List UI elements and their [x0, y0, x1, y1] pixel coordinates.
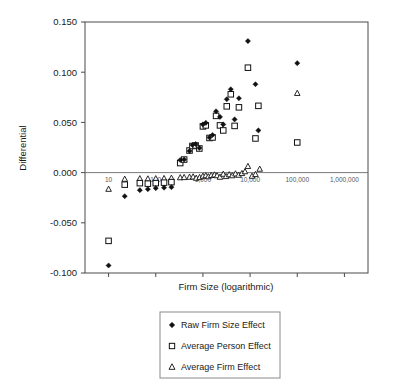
- data-point: [153, 180, 159, 186]
- data-point: [122, 194, 127, 199]
- scatter-plot-svg: 0.1500.1000.0500.000-0.050-0.100 101001,…: [0, 0, 395, 392]
- series-average-person-effect: [106, 65, 300, 244]
- legend: Raw Firm Size EffectAverage Person Effec…: [160, 312, 280, 378]
- series-raw-firm-size-effect: [106, 39, 300, 269]
- chart-figure: 0.1500.1000.0500.000-0.050-0.100 101001,…: [0, 0, 395, 392]
- data-point: [181, 174, 187, 179]
- data-point: [294, 90, 300, 95]
- data-point: [122, 176, 128, 181]
- legend-marker-filled-diamond: [169, 322, 175, 328]
- data-point: [257, 166, 263, 171]
- legend-label: Average Firm Effect: [181, 362, 261, 372]
- data-point: [224, 104, 230, 110]
- x-axis-title: Firm Size (logarithmic): [178, 281, 273, 292]
- data-point: [256, 128, 261, 133]
- y-tick-label: 0.150: [53, 16, 77, 27]
- data-point: [232, 123, 238, 129]
- data-point: [221, 128, 227, 134]
- data-point: [294, 140, 300, 146]
- y-axis-ticks: 0.1500.1000.0500.000-0.050-0.100: [50, 16, 85, 278]
- data-point: [253, 82, 258, 87]
- x-tick-label: 10: [105, 176, 113, 183]
- plot-frame: [85, 22, 368, 273]
- x-axis-ticks: 101001,00010,000100,0001,000,000: [105, 176, 359, 277]
- data-point: [137, 180, 143, 186]
- legend-label: Average Person Effect: [181, 341, 271, 351]
- legend-marker-open-square: [169, 343, 174, 348]
- data-point: [245, 65, 251, 71]
- y-tick-label: 0.100: [53, 67, 77, 78]
- x-tick-label: 100,000: [286, 176, 310, 183]
- data-point: [145, 187, 150, 192]
- data-point: [122, 182, 128, 188]
- data-point: [106, 186, 112, 191]
- data-point: [161, 180, 167, 186]
- data-point: [145, 181, 151, 187]
- data-point: [106, 238, 112, 244]
- series-average-firm-effect: [106, 90, 300, 191]
- legend-label: Raw Firm Size Effect: [181, 320, 265, 330]
- y-axis-title: Differential: [17, 125, 28, 170]
- data-point: [137, 188, 142, 193]
- data-point: [236, 96, 241, 101]
- data-point: [228, 92, 234, 98]
- data-point: [232, 117, 237, 122]
- y-tick-label: -0.100: [50, 267, 77, 278]
- x-tick-label: 1,000,000: [330, 176, 359, 183]
- y-tick-label: 0.000: [53, 167, 77, 178]
- data-point: [245, 39, 250, 44]
- data-point: [236, 105, 242, 111]
- data-point: [242, 169, 248, 174]
- data-point: [256, 103, 262, 109]
- legend-marker-open-triangle: [169, 364, 175, 370]
- data-point: [295, 61, 300, 66]
- data-series-group: [106, 39, 300, 269]
- data-point: [245, 163, 251, 168]
- data-point: [253, 136, 259, 142]
- legend-items: Raw Firm Size EffectAverage Person Effec…: [169, 320, 271, 372]
- data-point: [106, 263, 111, 268]
- y-tick-label: -0.050: [50, 217, 77, 228]
- data-point: [169, 179, 175, 185]
- y-tick-label: 0.050: [53, 117, 77, 128]
